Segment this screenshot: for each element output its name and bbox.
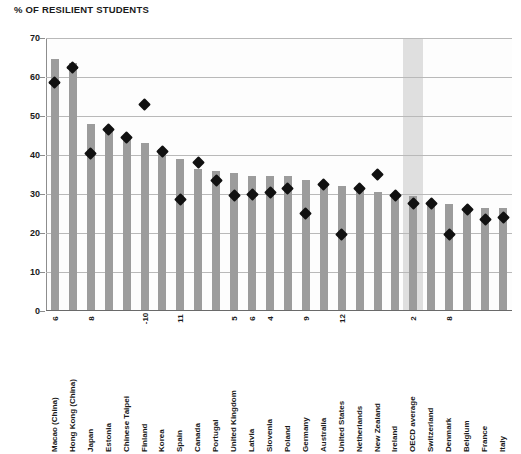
x-axis-tick-label-text: France bbox=[480, 426, 489, 452]
x-axis-category: Belgium bbox=[458, 312, 476, 452]
data-point-marker bbox=[228, 190, 241, 203]
x-axis-category: 6Latvia bbox=[243, 312, 261, 452]
y-axis-tick-label: 40 bbox=[30, 150, 40, 160]
change-annotation: 5 bbox=[230, 316, 239, 320]
x-axis-tick-label-text: United Kingdom bbox=[229, 390, 238, 452]
change-annotation: -10 bbox=[140, 313, 149, 325]
x-axis-category: 5United Kingdom bbox=[225, 312, 243, 452]
data-point-marker bbox=[264, 186, 277, 199]
change-annotation: 11 bbox=[176, 314, 185, 322]
x-axis-tick-label-text: Ireland bbox=[390, 426, 399, 452]
marker-slot bbox=[118, 38, 136, 311]
data-point-marker bbox=[67, 61, 80, 74]
y-axis-tick-mark bbox=[40, 38, 45, 39]
x-axis-category: New Zealand bbox=[369, 312, 387, 452]
marker-slot bbox=[171, 38, 189, 311]
x-axis-category: 12United States bbox=[333, 312, 351, 452]
marker-slot bbox=[369, 38, 387, 311]
x-axis-category: 2OECD average bbox=[404, 312, 422, 452]
data-point-marker bbox=[282, 182, 295, 195]
data-point-marker bbox=[192, 156, 205, 169]
y-axis-tick-label: 30 bbox=[30, 189, 40, 199]
x-axis-tick-label-text: Portugal bbox=[211, 420, 220, 452]
x-axis-category: 6Macao (China) bbox=[46, 312, 64, 452]
x-axis-category: Italy bbox=[494, 312, 512, 452]
marker-slot bbox=[189, 38, 207, 311]
x-axis-category: France bbox=[476, 312, 494, 452]
y-axis-tick-mark bbox=[40, 272, 45, 273]
y-axis-tick-mark bbox=[40, 116, 45, 117]
data-point-marker bbox=[335, 229, 348, 242]
x-axis-category: 8Japan bbox=[82, 312, 100, 452]
x-axis-category: Ireland bbox=[387, 312, 405, 452]
marker-slot bbox=[387, 38, 405, 311]
x-axis-baseline bbox=[46, 310, 512, 311]
x-axis-tick-label-text: Germany bbox=[301, 417, 310, 452]
x-axis-category: Canada bbox=[189, 312, 207, 452]
change-annotation: 6 bbox=[50, 316, 59, 320]
y-axis-tick-label: 70 bbox=[30, 33, 40, 43]
x-axis-tick-label-text: Poland bbox=[283, 425, 292, 452]
x-axis-category: Hong Kong (China) bbox=[64, 312, 82, 452]
marker-slot bbox=[225, 38, 243, 311]
x-axis-category: Korea bbox=[154, 312, 172, 452]
x-axis-category: Estonia bbox=[100, 312, 118, 452]
marker-slot bbox=[46, 38, 64, 311]
x-axis-category: -10Finland bbox=[136, 312, 154, 452]
data-point-marker bbox=[156, 145, 169, 158]
x-axis-category: 11Spain bbox=[171, 312, 189, 452]
data-point-marker bbox=[443, 229, 456, 242]
marker-slot bbox=[207, 38, 225, 311]
x-axis-tick-label-text: Italy bbox=[498, 436, 507, 452]
x-axis-tick-label-text: New Zealand bbox=[373, 403, 382, 452]
marker-slot bbox=[100, 38, 118, 311]
y-axis-tick-label: 20 bbox=[30, 228, 40, 238]
data-point-marker bbox=[300, 207, 313, 220]
y-axis-tick-label: 50 bbox=[30, 111, 40, 121]
x-axis-tick-label-text: Slovenia bbox=[265, 419, 274, 452]
data-point-marker bbox=[407, 197, 420, 210]
change-annotation: 9 bbox=[301, 316, 310, 320]
change-annotation: 12 bbox=[337, 314, 346, 323]
marker-slot bbox=[154, 38, 172, 311]
data-point-marker bbox=[120, 131, 133, 144]
x-axis-tick-label-text: Chinese Taipei bbox=[122, 396, 131, 452]
marker-slot bbox=[351, 38, 369, 311]
marker-slot bbox=[476, 38, 494, 311]
x-axis-tick-label-text: Denmark bbox=[444, 418, 453, 452]
y-axis: 010203040506070 bbox=[0, 38, 40, 311]
y-axis-tick-label: 10 bbox=[30, 267, 40, 277]
change-annotation: 6 bbox=[248, 316, 257, 320]
marker-slot bbox=[136, 38, 154, 311]
x-axis-category: Chinese Taipei bbox=[118, 312, 136, 452]
marker-slot bbox=[315, 38, 333, 311]
marker-slot bbox=[333, 38, 351, 311]
x-axis-category: 9Germany bbox=[297, 312, 315, 452]
y-axis-tick-mark bbox=[40, 77, 45, 78]
x-axis-tick-label-text: Macao (China) bbox=[50, 397, 59, 452]
change-annotation: 8 bbox=[445, 316, 454, 320]
y-axis-tick-mark bbox=[40, 155, 45, 156]
x-axis-tick-label-text: Switzerland bbox=[426, 408, 435, 452]
x-axis-labels: 6Macao (China)Hong Kong (China)8JapanEst… bbox=[46, 312, 512, 452]
x-axis-category: 4Slovenia bbox=[261, 312, 279, 452]
marker-slot bbox=[297, 38, 315, 311]
marker-slot bbox=[404, 38, 422, 311]
x-axis-tick-label-text: Spain bbox=[175, 430, 184, 452]
marker-slot bbox=[458, 38, 476, 311]
x-axis-tick-label-text: Netherlands bbox=[355, 406, 364, 452]
data-point-marker bbox=[317, 178, 330, 191]
marker-slot bbox=[440, 38, 458, 311]
change-annotation: 4 bbox=[266, 316, 275, 320]
x-axis-category: Australia bbox=[315, 312, 333, 452]
x-axis-category: Portugal bbox=[207, 312, 225, 452]
x-axis-tick-label-text: Canada bbox=[193, 423, 202, 452]
data-point-marker bbox=[138, 98, 151, 111]
data-point-marker bbox=[353, 182, 366, 195]
data-point-marker bbox=[461, 203, 474, 216]
data-point-marker bbox=[389, 190, 402, 203]
x-axis-tick-label-text: Japan bbox=[86, 429, 95, 452]
data-point-marker bbox=[371, 168, 384, 181]
x-axis-category: Netherlands bbox=[351, 312, 369, 452]
x-axis-category: Poland bbox=[279, 312, 297, 452]
